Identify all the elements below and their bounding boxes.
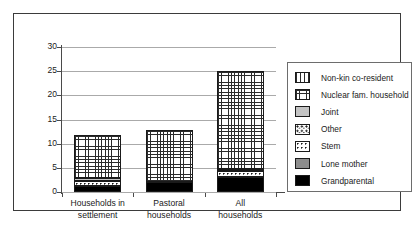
x-axis-label-line: Households in	[62, 198, 133, 210]
legend-swatch-stem	[295, 141, 310, 152]
chart-frame: 051015202530 Households insettlementPast…	[13, 13, 401, 211]
legend-item-lone-mother[interactable]: Lone mother	[295, 157, 368, 170]
y-tick: 30	[14, 42, 57, 51]
legend-label-joint: Joint	[321, 107, 339, 117]
x-tick-mark	[133, 193, 134, 197]
y-tick-mark	[57, 71, 61, 72]
x-axis-label-2: Pastoralhouseholds	[133, 198, 204, 221]
y-tick-mark	[57, 120, 61, 121]
y-tick-label: 20	[31, 90, 57, 99]
legend-swatch-other	[295, 124, 310, 135]
bar-segment-grandparental[interactable]	[74, 186, 121, 192]
y-tick-label: 5	[31, 163, 57, 172]
y-tick: 5	[14, 163, 57, 172]
legend-label-grandparental: Grandparental	[321, 176, 374, 186]
chart-figure: 051015202530 Households insettlementPast…	[0, 0, 416, 232]
bar-segment-joint[interactable]	[74, 178, 121, 181]
y-tick-mark	[57, 144, 61, 145]
legend-swatch-grandparental	[295, 175, 310, 186]
bar-segment-nuclear[interactable]	[146, 130, 193, 183]
x-axis-label-3: Allhouseholds	[205, 198, 276, 221]
legend-item-other[interactable]: Other	[295, 123, 342, 136]
bar-3[interactable]	[217, 47, 264, 192]
legend-swatch-nuclear	[295, 89, 310, 100]
legend-swatch-nonkin	[295, 72, 310, 83]
legend-swatch-joint	[295, 106, 310, 117]
plot-area	[62, 47, 276, 192]
y-tick-mark	[57, 95, 61, 96]
x-tick-mark	[62, 193, 63, 197]
x-axis-label-line: households	[205, 210, 276, 222]
x-tick-mark	[205, 193, 206, 197]
bar-segment-joint[interactable]	[217, 169, 264, 171]
gridline	[62, 192, 276, 193]
y-tick: 25	[14, 66, 57, 75]
legend-label-nonkin: Non-kin co-resident	[321, 73, 393, 83]
legend-item-nonkin[interactable]: Non-kin co-resident	[295, 71, 393, 84]
y-tick-label: 30	[31, 42, 57, 51]
y-tick: 20	[14, 90, 57, 99]
x-axis-label-line: All	[205, 198, 276, 210]
legend-item-grandparental[interactable]: Grandparental	[295, 174, 374, 187]
bar-segment-grandparental[interactable]	[217, 177, 264, 192]
legend-label-other: Other	[321, 124, 342, 134]
y-tick: 10	[14, 139, 57, 148]
y-tick-label: 10	[31, 139, 57, 148]
legend-swatch-lone-mother	[295, 158, 310, 169]
y-tick: 15	[14, 115, 57, 124]
legend-label-lone-mother: Lone mother	[321, 159, 368, 169]
bar-segment-nuclear[interactable]	[217, 71, 264, 169]
x-axis-label-1: Households insettlement	[62, 198, 133, 221]
y-tick-label: 25	[31, 66, 57, 75]
y-tick-mark	[57, 168, 61, 169]
x-axis-label-line: households	[133, 210, 204, 222]
bar-1[interactable]	[74, 47, 121, 192]
bar-segment-stem[interactable]	[217, 171, 264, 176]
legend-item-stem[interactable]: Stem	[295, 140, 340, 153]
x-tick-mark	[276, 193, 277, 197]
bar-segment-grandparental[interactable]	[146, 182, 193, 192]
bar-segment-nuclear[interactable]	[74, 135, 121, 178]
x-axis-label-line: settlement	[62, 210, 133, 222]
legend-item-nuclear[interactable]: Nuclear fam. household	[295, 88, 409, 101]
legend-label-nuclear: Nuclear fam. household	[321, 90, 409, 100]
bar-2[interactable]	[146, 47, 193, 192]
legend-item-joint[interactable]: Joint	[295, 105, 339, 118]
bar-segment-stem[interactable]	[74, 181, 121, 186]
x-axis-label-line: Pastoral	[133, 198, 204, 210]
y-tick-mark	[57, 47, 61, 48]
y-tick: 0	[14, 187, 57, 196]
chart-legend: Non-kin co-residentNuclear fam. househol…	[287, 62, 412, 192]
y-tick-label: 15	[31, 115, 57, 124]
y-tick-mark	[57, 192, 61, 193]
y-tick-label: 0	[31, 187, 57, 196]
legend-label-stem: Stem	[321, 141, 340, 151]
